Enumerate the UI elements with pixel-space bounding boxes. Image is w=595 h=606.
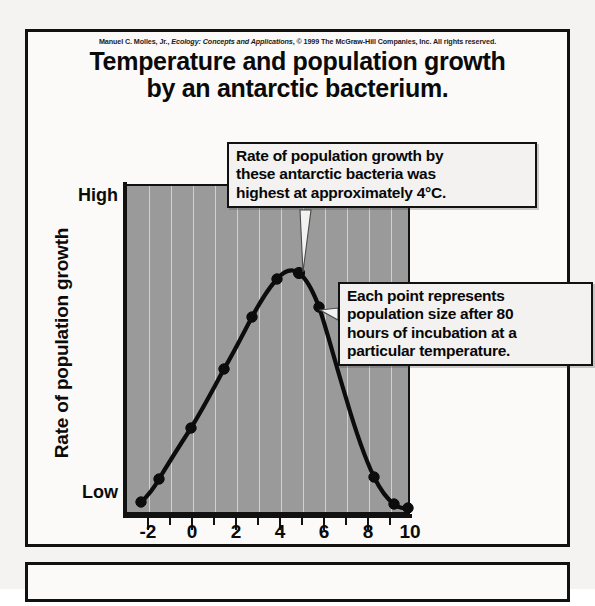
x-tick-minor (301, 518, 303, 525)
gridline (303, 186, 304, 512)
x-tick-minor (169, 518, 171, 525)
x-tick-label: 6 (304, 521, 344, 543)
x-tick-minor (257, 518, 259, 525)
callout-1-line-3: highest at approximately 4°C. (236, 184, 529, 202)
callout-2-line-1: Each point represents (347, 287, 585, 305)
bottom-frame-partial (25, 562, 570, 602)
callout-2-line-2: population size after 80 (347, 305, 585, 323)
callout-peak-temperature: Rate of population growth by these antar… (227, 142, 537, 208)
gridline (237, 186, 238, 512)
x-tick-label: 2 (216, 521, 256, 543)
callout-point-meaning: Each point represents population size af… (338, 282, 593, 366)
x-tick-label: -2 (128, 521, 168, 543)
gridline (193, 186, 194, 512)
callout-2-line-4: particular temperature. (347, 342, 585, 360)
x-tick-minor (213, 518, 215, 525)
gridline (325, 186, 326, 512)
callout-1-line-2: these antarctic bacteria was (236, 165, 529, 183)
gridline (149, 186, 150, 512)
gridline (171, 186, 172, 512)
y-axis-line (123, 182, 127, 516)
y-axis-label: Rate of population growth (51, 223, 73, 463)
gridline (259, 186, 260, 512)
x-tick-label: 4 (260, 521, 300, 543)
x-tick-label: 8 (348, 521, 388, 543)
y-axis-high-label: High (52, 185, 118, 206)
gridline (281, 186, 282, 512)
slide-frame: Manuel C. Molles, Jr., Ecology: Concepts… (25, 29, 570, 547)
y-axis-low-label: Low (52, 482, 118, 503)
x-tick-label: 0 (172, 521, 212, 543)
x-tick-minor (345, 518, 347, 525)
callout-2-line-3: hours of incubation at a (347, 324, 585, 342)
gridline (215, 186, 216, 512)
callout-1-line-1: Rate of population growth by (236, 147, 529, 165)
x-tick-label: 10 (390, 521, 430, 543)
